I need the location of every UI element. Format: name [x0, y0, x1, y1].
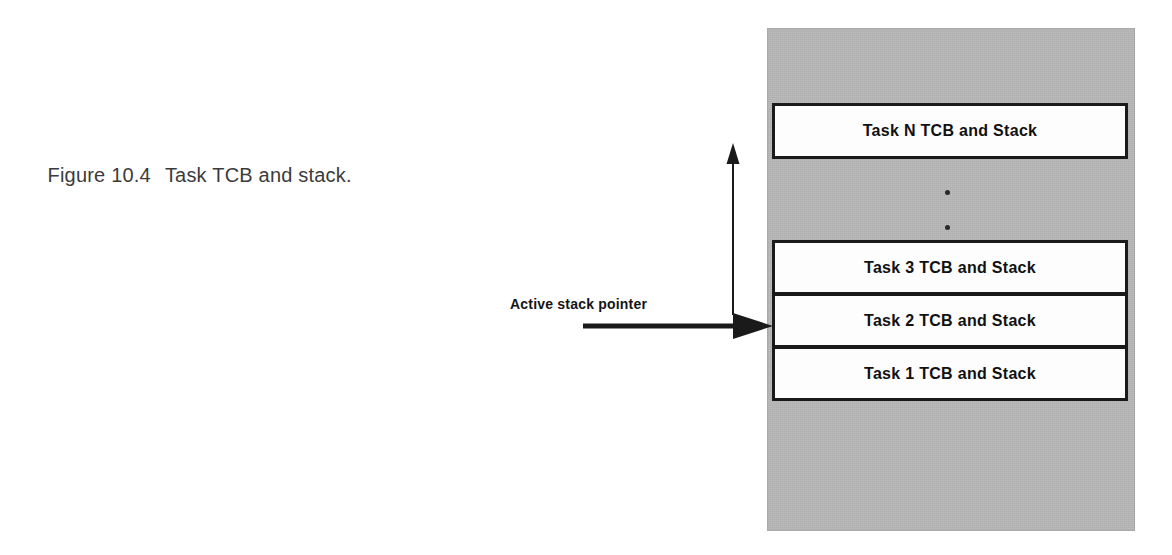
- task-block-label: Task N TCB and Stack: [863, 122, 1038, 140]
- figure-caption: Figure 10.4Task TCB and stack.: [36, 141, 352, 187]
- active-stack-pointer-arrow-icon: [583, 313, 773, 339]
- ellipsis-dot: [945, 190, 950, 195]
- figure-caption-label: Figure 10.4: [48, 164, 151, 186]
- stack-growth-arrow-icon: [725, 143, 741, 315]
- task-block-label: Task 2 TCB and Stack: [864, 312, 1036, 330]
- task-block-label: Task 3 TCB and Stack: [864, 259, 1036, 277]
- task-block-label: Task 1 TCB and Stack: [864, 365, 1036, 383]
- task-block-3: Task 3 TCB and Stack: [772, 240, 1128, 295]
- ellipsis-dot: [945, 225, 950, 230]
- task-block-1: Task 1 TCB and Stack: [772, 346, 1128, 401]
- task-block-n: Task N TCB and Stack: [772, 103, 1128, 159]
- task-block-2: Task 2 TCB and Stack: [772, 293, 1128, 348]
- figure-caption-text: Task TCB and stack.: [165, 164, 352, 186]
- active-stack-pointer-label: Active stack pointer: [510, 296, 647, 312]
